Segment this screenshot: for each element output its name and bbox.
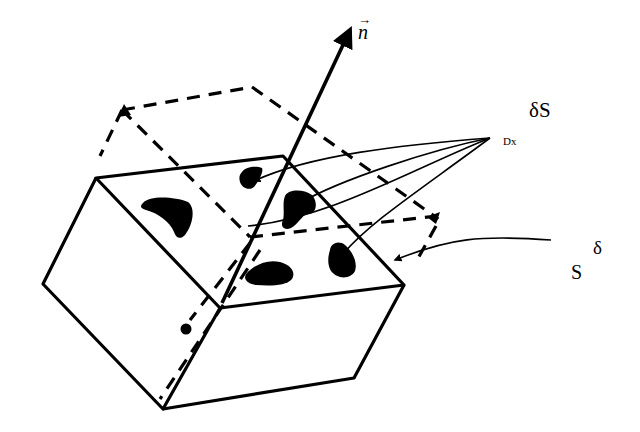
dashed-surface xyxy=(100,87,437,399)
blob-4 xyxy=(245,261,293,285)
blob-2 xyxy=(239,167,262,189)
dashed-top-edge xyxy=(122,87,252,110)
surface-element-label: δS xyxy=(529,100,551,121)
surface-element-subscript: Dx xyxy=(503,136,516,147)
normal-vector-label: → n xyxy=(358,22,368,42)
solid-box xyxy=(43,156,404,409)
dashed-front-edge xyxy=(160,250,260,399)
surface-delta-label: δ xyxy=(593,238,602,257)
dashed-left-descent xyxy=(100,110,122,156)
surface-label: S xyxy=(571,262,582,282)
diagram-canvas xyxy=(0,0,640,432)
vector-arrow-accent: → xyxy=(358,13,371,26)
blob-5 xyxy=(328,243,356,278)
point-marker xyxy=(181,324,192,335)
dashed-right-descent xyxy=(416,226,436,262)
leader-line-s xyxy=(395,238,551,260)
diagram-figure xyxy=(0,0,640,432)
box-left-face xyxy=(43,178,220,409)
